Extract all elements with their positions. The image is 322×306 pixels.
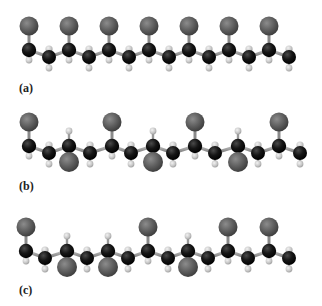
carbon-atom (161, 251, 175, 265)
hydrogen-atom (145, 258, 152, 265)
carbon-atom (60, 244, 74, 258)
hydrogen-atom (42, 266, 49, 273)
hydrogen-atom (226, 57, 233, 64)
chlorine-atom (20, 113, 39, 132)
carbon-atom (166, 146, 180, 160)
carbon-atom (242, 50, 256, 64)
chlorine-atom (100, 17, 119, 36)
hydrogen-atom (26, 57, 33, 64)
hydrogen-atom (46, 161, 53, 168)
chlorine-atom (103, 113, 122, 132)
panel-isotactic (20, 17, 297, 72)
hydrogen-atom (128, 161, 135, 168)
chlorine-atom (20, 17, 39, 36)
carbon-atom (272, 139, 286, 153)
carbon-atom (262, 244, 276, 258)
carbon-atom (105, 139, 119, 153)
carbon-atom (42, 50, 56, 64)
carbon-atom (208, 146, 222, 160)
hydrogen-atom (66, 128, 73, 135)
chlorine-atom (219, 218, 238, 237)
hydrogen-atom (84, 266, 91, 273)
hydrogen-atom (146, 57, 153, 64)
hydrogen-atom (105, 233, 112, 240)
hydrogen-atom (46, 65, 53, 72)
hydrogen-atom (166, 65, 173, 72)
hydrogen-atom (170, 161, 177, 168)
carbon-atom (62, 43, 76, 57)
chlorine-atom (143, 152, 163, 172)
chlorine-atom (260, 17, 279, 36)
hydrogen-atom (86, 65, 93, 72)
panel-label-c: (c) (19, 284, 32, 296)
carbon-atom (102, 43, 116, 57)
chlorine-atom (260, 218, 279, 237)
hydrogen-atom (23, 258, 30, 265)
carbon-atom (38, 251, 52, 265)
carbon-atom (121, 251, 135, 265)
hydrogen-atom (106, 57, 113, 64)
carbon-atom (22, 43, 36, 57)
carbon-atom (141, 244, 155, 258)
hydrogen-atom (286, 266, 293, 273)
carbon-atom (142, 43, 156, 57)
chlorine-atom (270, 113, 289, 132)
chlorine-atom (220, 17, 239, 36)
carbon-atom (293, 146, 307, 160)
hydrogen-atom (109, 153, 116, 160)
carbon-atom (241, 251, 255, 265)
hydrogen-atom (266, 258, 273, 265)
carbon-atom (101, 244, 115, 258)
chlorine-atom (17, 218, 36, 237)
carbon-atom (82, 50, 96, 64)
hydrogen-atom (276, 153, 283, 160)
hydrogen-atom (185, 233, 192, 240)
chlorine-atom (139, 218, 158, 237)
chlorine-atom (57, 257, 77, 277)
carbon-atom (231, 139, 245, 153)
hydrogen-atom (286, 65, 293, 72)
carbon-atom (162, 50, 176, 64)
hydrogen-atom (165, 266, 172, 273)
chlorine-atom (60, 17, 79, 36)
carbon-atom (221, 244, 235, 258)
carbon-atom (181, 244, 195, 258)
panel-label-a: (a) (19, 82, 33, 94)
hydrogen-atom (87, 161, 94, 168)
chlorine-atom (228, 152, 248, 172)
carbon-atom (146, 139, 160, 153)
carbon-atom (282, 50, 296, 64)
hydrogen-atom (205, 266, 212, 273)
chlorine-atom (178, 257, 198, 277)
carbon-atom (182, 43, 196, 57)
hydrogen-atom (206, 65, 213, 72)
chlorine-atom (186, 113, 205, 132)
carbon-atom (42, 146, 56, 160)
panel-syndiotactic (20, 113, 308, 173)
hydrogen-atom (186, 57, 193, 64)
chlorine-atom (140, 17, 159, 36)
hydrogen-atom (26, 153, 33, 160)
hydrogen-atom (266, 57, 273, 64)
carbon-atom (202, 50, 216, 64)
carbon-atom (262, 43, 276, 57)
polymer-tacticity-figure (0, 0, 322, 306)
carbon-atom (19, 244, 33, 258)
hydrogen-atom (126, 65, 133, 72)
carbon-atom (251, 146, 265, 160)
hydrogen-atom (225, 258, 232, 265)
hydrogen-atom (192, 153, 199, 160)
chlorine-atom (180, 17, 199, 36)
carbon-atom (222, 43, 236, 57)
carbon-atom (201, 251, 215, 265)
carbon-atom (22, 139, 36, 153)
carbon-atom (124, 146, 138, 160)
hydrogen-atom (64, 233, 71, 240)
hydrogen-atom (235, 128, 242, 135)
hydrogen-atom (125, 266, 132, 273)
hydrogen-atom (255, 161, 262, 168)
chlorine-atom (59, 152, 79, 172)
carbon-atom (188, 139, 202, 153)
hydrogen-atom (245, 266, 252, 273)
panel-atactic (17, 218, 297, 278)
